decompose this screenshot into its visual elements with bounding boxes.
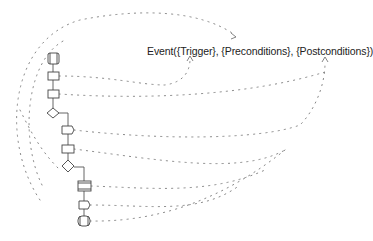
node-decision-1[interactable]: [47, 108, 59, 118]
node-step-4[interactable]: [62, 145, 74, 153]
node-decision-2[interactable]: [62, 160, 74, 172]
node-step-5[interactable]: [79, 201, 90, 209]
node-subprocess[interactable]: [78, 181, 91, 191]
node-step-2[interactable]: [48, 90, 59, 98]
link-left-diagonal: [20, 110, 58, 168]
link-step3-to-postconditions: [74, 63, 325, 137]
node-start[interactable]: [48, 53, 59, 64]
node-end[interactable]: [78, 216, 90, 226]
arrow-postconditions-icon: [322, 57, 328, 62]
flow-connectors: [53, 64, 84, 217]
link-subprocess: [91, 170, 265, 188]
link-step1-to-trigger: [59, 59, 190, 85]
arrow-preconditions-icon: [231, 33, 236, 39]
link-step2-to-postconditions: [59, 72, 325, 96]
link-step4: [74, 149, 285, 164]
event-signature-label: Event({Trigger}, {Preconditions}, {Postc…: [147, 45, 373, 57]
node-step-3[interactable]: [62, 126, 74, 134]
link-start-to-preconditions: [17, 13, 235, 200]
node-step-1[interactable]: [48, 72, 59, 80]
link-end: [90, 150, 285, 221]
